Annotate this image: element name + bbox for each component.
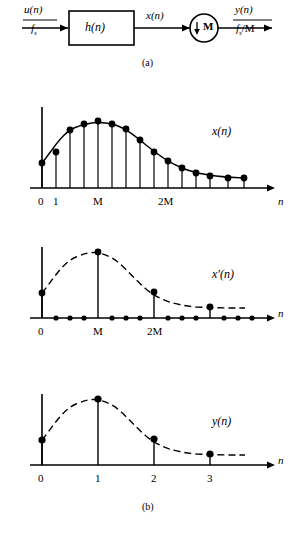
plot-yn-tick-3: 3 — [207, 473, 213, 484]
plot-xprime-tick-2M: 2M — [147, 326, 162, 337]
plot-yn-axis-label: n — [278, 455, 284, 466]
output-signal-label: y(n) — [235, 4, 253, 15]
input-rate-sub: s — [34, 29, 37, 37]
input-rate-label: fs — [31, 23, 37, 37]
plot-xn-tick-1: 1 — [53, 196, 59, 207]
plot-yn-tick-2: 2 — [151, 473, 157, 484]
caption-a: (a) — [142, 58, 153, 68]
plot-xn-axis-label: n — [278, 196, 284, 207]
figure-container: u(n) fs h(n) x(n) M y(n) fs/M (a) — [0, 0, 307, 538]
plot-xn-svg — [0, 95, 307, 230]
downsampler-factor-label: M — [203, 21, 213, 32]
plot-xprime-signal-label: x'(n) — [212, 268, 234, 280]
filter-label: h(n) — [85, 21, 105, 33]
intermediate-signal-label: x(n) — [146, 10, 164, 21]
plot-xn-tick-2M: 2M — [158, 196, 173, 207]
plot-yn-tick-1: 1 — [95, 473, 101, 484]
input-signal-label: u(n) — [24, 4, 42, 15]
plot-xprime-tick-0: 0 — [38, 326, 44, 337]
plot-xn-tick-M: M — [93, 196, 103, 207]
plot-xprime-tick-M: M — [93, 326, 103, 337]
output-rate-div: /M — [242, 22, 255, 34]
plot-xprime-axis-label: n — [278, 308, 284, 319]
output-rate-label: fs/M — [236, 23, 255, 37]
plot-xn-signal-label: x(n) — [212, 125, 231, 137]
plot-yn-tick-0: 0 — [38, 473, 44, 484]
plot-yn-signal-label: y(n) — [212, 415, 231, 427]
plot-xprime-svg — [0, 235, 307, 355]
plot-xn-tick-0: 0 — [38, 196, 44, 207]
caption-b: (b) — [142, 502, 154, 512]
